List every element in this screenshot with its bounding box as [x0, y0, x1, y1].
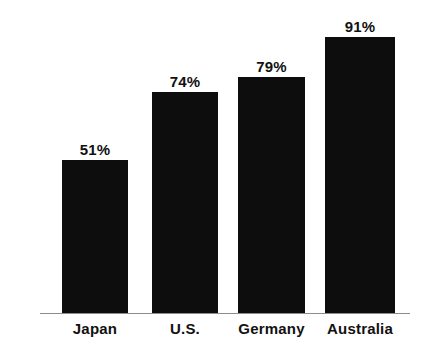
plot-area: 51% 74% 79% 91% Japan U.S. Germany Austr… — [0, 0, 433, 359]
category-label-us: U.S. — [147, 320, 223, 338]
category-label-japan: Japan — [57, 320, 133, 338]
bar-australia — [325, 37, 395, 313]
bar-germany — [238, 77, 305, 313]
bar-value-label: 79% — [238, 59, 305, 75]
bar-chart: 51% 74% 79% 91% Japan U.S. Germany Austr… — [0, 0, 433, 359]
bar-japan — [62, 160, 128, 313]
bar-value-label: 74% — [152, 74, 218, 90]
category-label-australia: Australia — [318, 320, 402, 338]
category-label-germany: Germany — [231, 320, 312, 338]
bar-value-label: 91% — [325, 19, 395, 35]
bar-value-label: 51% — [62, 142, 128, 158]
bar-us — [152, 92, 218, 313]
x-axis-baseline — [40, 313, 410, 314]
